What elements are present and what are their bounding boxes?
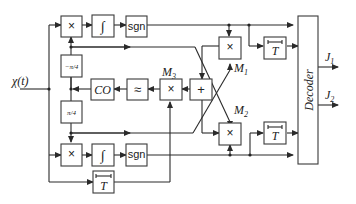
integrator-top: ∫ — [92, 15, 114, 37]
co-block: CO — [91, 79, 114, 100]
decoder-block: Decoder — [298, 16, 318, 164]
svg-text:+: + — [197, 82, 205, 97]
svg-text:π/4: π/4 — [67, 109, 76, 117]
svg-text:×: × — [226, 126, 233, 140]
input-label: χ(t) — [11, 74, 29, 88]
svg-text:Decoder: Decoder — [302, 69, 316, 112]
block-diagram: × ∫ sgn −π/4 π/4 CO ≈ × + × × — [0, 0, 356, 204]
svg-text:sgn: sgn — [128, 20, 146, 32]
svg-text:×: × — [226, 40, 233, 54]
multiplier-m3: × — [160, 79, 182, 100]
delay-top: T — [264, 37, 286, 59]
delay-bottom: T — [93, 171, 114, 193]
output-j2: J2 — [325, 88, 334, 104]
label-m2: M2 — [233, 103, 248, 119]
label-m3: M3 — [161, 65, 176, 81]
phase-shifter-neg: −π/4 — [61, 55, 82, 77]
multiplier-bottom: × — [61, 144, 82, 166]
svg-text:×: × — [68, 147, 75, 161]
lowpass-filter: ≈ — [127, 79, 148, 100]
svg-text:≈: ≈ — [134, 82, 141, 97]
delay-mid: T — [264, 122, 286, 144]
multiplier-top: × — [61, 16, 82, 37]
label-m1: M1 — [233, 61, 248, 77]
multiplier-m2: × — [219, 123, 241, 145]
svg-text:sgn: sgn — [128, 148, 146, 160]
adder: + — [190, 79, 212, 100]
sgn-bottom: sgn — [126, 144, 147, 166]
integrator-bottom: ∫ — [92, 144, 114, 166]
svg-text:×: × — [68, 19, 75, 33]
svg-text:CO: CO — [94, 83, 111, 97]
output-j1: J1 — [325, 50, 334, 66]
sgn-top: sgn — [126, 16, 147, 37]
svg-text:×: × — [167, 82, 174, 96]
svg-text:−π/4: −π/4 — [65, 63, 79, 71]
phase-shifter-pos: π/4 — [61, 101, 82, 123]
multiplier-m1: × — [219, 37, 241, 59]
